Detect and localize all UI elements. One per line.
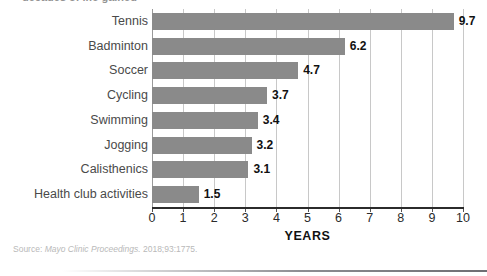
source-label: Source: — [13, 244, 42, 254]
clipped-title-strip: decades of life gained — [0, 0, 487, 9]
x-tick-label-10: 10 — [453, 211, 473, 225]
x-tick-label-5: 5 — [298, 211, 318, 225]
category-label: Badminton — [88, 38, 148, 55]
x-tick-label-3: 3 — [235, 211, 255, 225]
bar — [152, 62, 298, 79]
bar — [152, 87, 267, 104]
bar — [152, 161, 248, 178]
category-label: Cycling — [107, 87, 148, 104]
bar — [152, 186, 199, 203]
category-label: Swimming — [90, 112, 148, 129]
source-citation: 2018;93:1775. — [143, 244, 197, 254]
x-tick-label-8: 8 — [391, 211, 411, 225]
source-journal: Mayo Clinic Proceedings. — [45, 244, 141, 254]
x-tick-label-6: 6 — [329, 211, 349, 225]
bar-value-label: 3.2 — [257, 137, 274, 154]
gridline-7 — [370, 9, 371, 207]
bar — [152, 137, 252, 154]
bar-value-label: 9.7 — [459, 13, 476, 30]
category-axis-labels: TennisBadmintonSoccerCyclingSwimmingJogg… — [0, 9, 148, 207]
bar-value-label: 3.7 — [272, 87, 289, 104]
clipped-title-text: decades of life gained — [22, 0, 137, 3]
x-axis-title: YEARS — [152, 229, 463, 243]
bottom-divider — [0, 270, 487, 272]
category-label: Health club activities — [34, 186, 148, 203]
x-tick-label-1: 1 — [173, 211, 193, 225]
x-tick-label-9: 9 — [422, 211, 442, 225]
bar — [152, 38, 345, 55]
bar — [152, 112, 258, 129]
gridline-8 — [401, 9, 402, 207]
plot-area: 9.76.24.73.73.43.23.11.5 — [152, 9, 463, 207]
x-tick-label-2: 2 — [204, 211, 224, 225]
bar-value-label: 1.5 — [204, 186, 221, 203]
gridline-10 — [463, 9, 464, 207]
bar-value-label: 3.4 — [263, 112, 280, 129]
category-label: Tennis — [112, 13, 148, 30]
x-tick-label-7: 7 — [360, 211, 380, 225]
bar-value-label: 3.1 — [253, 161, 270, 178]
bar — [152, 13, 454, 30]
source-note: Source: Mayo Clinic Proceedings. 2018;93… — [13, 244, 197, 254]
bar-value-label: 6.2 — [350, 38, 367, 55]
x-tick-label-4: 4 — [266, 211, 286, 225]
gridline-9 — [432, 9, 433, 207]
bar-value-label: 4.7 — [303, 62, 320, 79]
bar-chart: TennisBadmintonSoccerCyclingSwimmingJogg… — [0, 9, 487, 241]
category-label: Calisthenics — [81, 161, 148, 178]
category-label: Soccer — [109, 62, 148, 79]
category-label: Jogging — [104, 137, 148, 154]
x-tick-label-0: 0 — [142, 211, 162, 225]
